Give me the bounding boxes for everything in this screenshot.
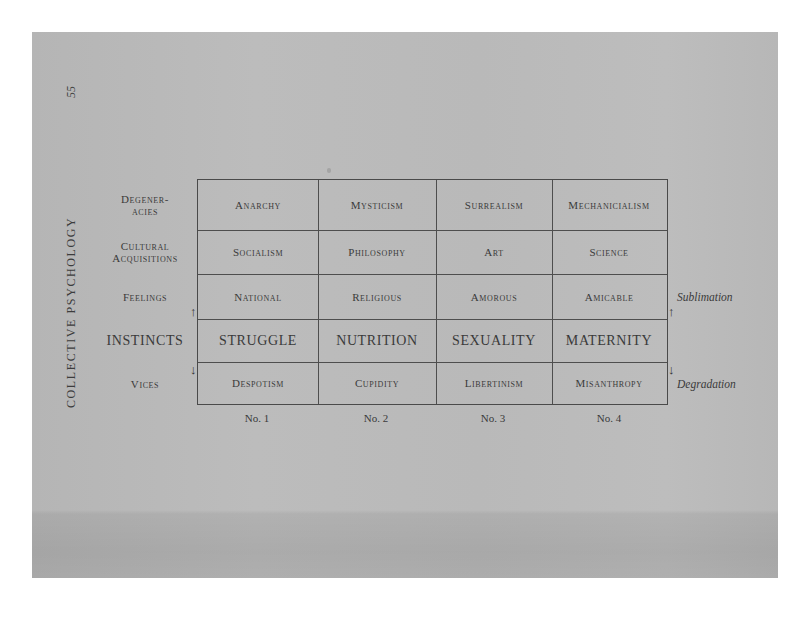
column-number: No. 4 [551,412,667,424]
ink-smudge [327,168,331,173]
table-cell: Cupidity [318,362,436,404]
table-cell: Amicable [552,274,666,319]
row-label-cultural-acquisitions: Cultural Acquisitions [98,230,192,274]
row-label-line: Acquisitions [112,252,177,264]
table-cell: Despotism [198,362,318,404]
row-label-feelings: Feelings [98,275,192,319]
table-cell: Mechanicialism [552,180,666,230]
column-number: No. 2 [317,412,435,424]
table-cell: Science [552,230,666,274]
degradation-label: Degradation [677,378,736,390]
table-cell: Misanthropy [552,362,666,404]
page-number: 55 [64,86,79,98]
row-label-line: acies [121,205,169,217]
row-label-degeneracies: Degener- acies [98,181,192,229]
table-cell: Religious [318,274,436,319]
row-label-line: Vices [131,378,159,390]
row-label-line: Degener- [121,193,169,205]
up-arrow-icon: ↑ [190,305,197,318]
table-cell: Surrealism [436,180,552,230]
table-cell: Socialism [198,230,318,274]
row-label-line: Feelings [123,291,167,303]
table-cell: Libertinism [436,362,552,404]
table-cell: STRUGGLE [198,319,318,362]
row-label-instincts: INSTINCTS [98,320,192,362]
down-arrow-icon: ↓ [190,363,197,376]
table-cell: National [198,274,318,319]
row-label-line: INSTINCTS [107,335,184,347]
table-cell: Mysticism [318,180,436,230]
column-number: No. 1 [197,412,317,424]
table-cell: MATERNITY [552,319,666,362]
table-cell: NUTRITION [318,319,436,362]
running-head: COLLECTIVE PSYCHOLOGY [64,217,79,408]
table-cell: Art [436,230,552,274]
sublimation-label: Sublimation [677,291,733,303]
row-label-line: Cultural [112,240,177,252]
row-label-vices: Vices [98,363,192,405]
classification-table: Anarchy Mysticism Surrealism Mechanicial… [197,179,668,405]
up-arrow-icon: ↑ [668,305,675,318]
down-arrow-icon: ↓ [668,363,675,376]
table-cell: Anarchy [198,180,318,230]
table-cell: Philosophy [318,230,436,274]
column-number: No. 3 [435,412,551,424]
table-cell: SEXUALITY [436,319,552,362]
table-cell: Amorous [436,274,552,319]
